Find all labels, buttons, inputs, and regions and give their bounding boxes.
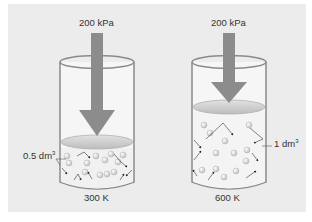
left-pressure-label: 200 kPa	[79, 17, 114, 28]
cylinders-illustration	[0, 0, 312, 222]
right-cylinder	[192, 33, 272, 189]
right-volume-label: 1 dm3	[274, 138, 298, 149]
left-cylinder	[56, 33, 134, 189]
right-temperature-label: 600 K	[215, 192, 240, 203]
right-pressure-label: 200 kPa	[211, 17, 246, 28]
left-temperature-label: 300 K	[84, 192, 109, 203]
gas-law-diagram: 200 kPa 200 kPa 0.5 dm3 1 dm3 300 K 600 …	[0, 0, 312, 222]
left-volume-label: 0.5 dm3	[23, 150, 55, 161]
